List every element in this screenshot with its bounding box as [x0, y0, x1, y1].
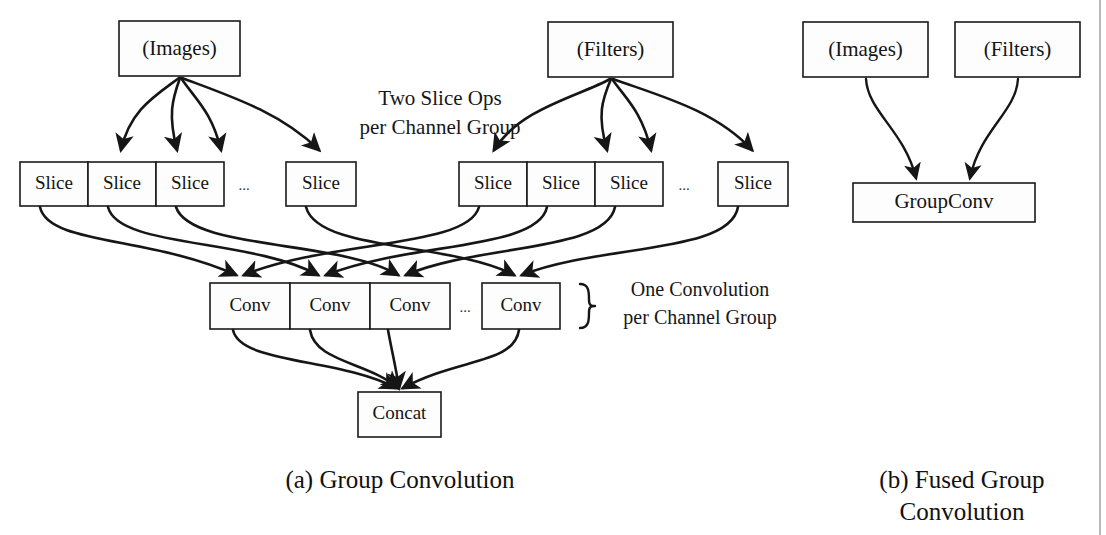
edge-images-slice-2: [172, 78, 180, 150]
slice-label-img-4: Slice: [302, 172, 340, 193]
conv-label-2: Conv: [309, 294, 351, 315]
panel-a-images-label: (Images): [142, 36, 217, 60]
annotation-one-convolution: One Convolution per Channel Group: [580, 278, 777, 329]
panel-b-edges: [866, 79, 1018, 178]
panel-a-caption: (a) Group Convolution: [285, 466, 515, 494]
panel-a-filters-to-slice-edges: [494, 79, 752, 150]
edge-conv2-concat: [310, 330, 398, 388]
panel-a-filters-label: (Filters): [577, 37, 645, 61]
edge-conv1-concat: [233, 330, 396, 388]
slice-label-img-2: Slice: [103, 172, 141, 193]
annotation-conv-line1: One Convolution: [631, 278, 769, 300]
panel-b-caption-line1: (b) Fused Group: [879, 466, 1044, 494]
edge-slice-img1-conv1: [40, 207, 236, 275]
edge-filters-groupconv: [970, 79, 1018, 178]
panel-b-caption-line2: Convolution: [899, 498, 1025, 525]
panel-a-concat-node[interactable]: Concat: [358, 392, 441, 437]
conv-label-3: Conv: [389, 294, 431, 315]
slice-label-flt-2: Slice: [542, 172, 580, 193]
figure-root: (Images) (Filters) Two Slice Ops per Cha…: [0, 0, 1106, 535]
panel-a-filters-node[interactable]: (Filters): [548, 22, 673, 77]
panel-b-filters-node[interactable]: (Filters): [955, 22, 1080, 77]
panel-a-filters-slice-row: Slice Slice Slice ... Slice: [459, 162, 788, 206]
concat-label: Concat: [373, 402, 428, 423]
edge-conv4-concat: [403, 330, 519, 388]
slice-ellipsis-images: ...: [238, 177, 249, 193]
conv-ellipsis: ...: [459, 299, 470, 315]
slice-label-flt-3: Slice: [610, 172, 648, 193]
conv-annotation-brace: [580, 284, 595, 328]
conv-label-1: Conv: [229, 294, 271, 315]
slice-label-img-1: Slice: [35, 172, 73, 193]
edge-images-groupconv: [866, 79, 916, 178]
panel-a-images-slice-row: Slice Slice Slice ... Slice: [20, 162, 356, 206]
panel-a-images-to-slice-edges: [121, 78, 319, 150]
panel-a-slice-to-conv-edges: [40, 207, 738, 275]
annotation-slice-line1: Two Slice Ops: [378, 86, 501, 110]
panel-b-images-node[interactable]: (Images): [803, 22, 928, 77]
panel-a-images-node[interactable]: (Images): [119, 21, 240, 76]
edge-filters-slice-2: [601, 79, 611, 150]
groupconv-label: GroupConv: [894, 189, 994, 213]
panel-a-conv-row: Conv Conv Conv ... Conv: [210, 283, 560, 329]
annotation-two-slice-ops: Two Slice Ops per Channel Group: [360, 86, 521, 139]
edge-slice-flt3-conv3: [406, 207, 615, 275]
edge-images-slice-4: [182, 78, 319, 150]
conv-label-4: Conv: [500, 294, 542, 315]
edge-images-slice-3: [181, 78, 221, 150]
slice-ellipsis-filters: ...: [678, 177, 689, 193]
edge-filters-slice-4: [613, 79, 752, 150]
panel-a-conv-to-concat-edges: [233, 330, 519, 388]
group-convolution-diagram: (Images) (Filters) Two Slice Ops per Cha…: [0, 0, 1106, 535]
slice-label-flt-1: Slice: [474, 172, 512, 193]
slice-label-img-3: Slice: [171, 172, 209, 193]
edge-images-slice-1: [121, 78, 179, 150]
panel-b-groupconv-node[interactable]: GroupConv: [853, 183, 1035, 222]
edge-conv3-concat: [388, 330, 399, 388]
slice-label-flt-4: Slice: [734, 172, 772, 193]
annotation-slice-line2: per Channel Group: [360, 115, 521, 139]
panel-b-filters-label: (Filters): [984, 37, 1052, 61]
annotation-conv-line2: per Channel Group: [623, 306, 776, 329]
panel-b-images-label: (Images): [828, 37, 903, 61]
